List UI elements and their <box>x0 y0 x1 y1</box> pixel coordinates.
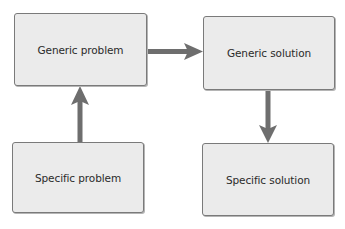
node-label: Generic solution <box>227 47 311 59</box>
arrow-right-icon <box>147 43 203 60</box>
node-specific-problem: Specific problem <box>12 142 144 213</box>
node-generic-solution: Generic solution <box>203 16 335 90</box>
arrow-up-icon <box>71 86 89 142</box>
node-label: Generic problem <box>37 44 123 56</box>
node-generic-problem: Generic problem <box>14 13 147 86</box>
arrow-down-icon <box>259 90 277 143</box>
node-specific-solution: Specific solution <box>202 143 334 216</box>
node-label: Specific problem <box>35 172 121 184</box>
node-label: Specific solution <box>226 174 310 186</box>
